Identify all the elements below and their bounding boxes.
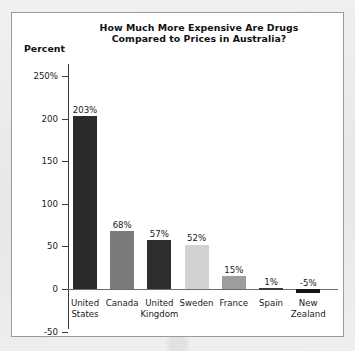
- plot-area: 250%200150100500-50203%UnitedStates68%Ca…: [12, 13, 345, 338]
- y-axis-tick-label: 200: [42, 114, 58, 124]
- bar-value-label: 52%: [175, 233, 219, 243]
- bar-sweden[interactable]: [185, 245, 209, 289]
- y-axis-tick-label: 150: [42, 156, 58, 166]
- x-axis-category-new-zealand: NewZealand: [280, 298, 336, 319]
- category-label-line: New: [280, 298, 336, 309]
- y-axis-tick: [62, 76, 68, 77]
- y-axis-tick: [62, 246, 68, 247]
- bar-value-label: 15%: [212, 265, 256, 275]
- y-axis-tick: [62, 332, 68, 333]
- bar-united-states[interactable]: [73, 116, 97, 289]
- bar-value-label: 203%: [63, 105, 107, 115]
- bar-canada[interactable]: [110, 231, 134, 289]
- y-axis-tick-label: 250%: [33, 71, 58, 81]
- y-axis-tick: [62, 204, 68, 205]
- chart-figure: How Much More Expensive Are Drugs Compar…: [11, 12, 344, 337]
- bar-new-zealand[interactable]: [296, 289, 320, 293]
- y-axis-tick-label: 100: [42, 199, 58, 209]
- category-label-line: States: [57, 309, 113, 320]
- category-label-line: Kingdom: [131, 309, 187, 320]
- bar-value-label: -5%: [286, 278, 330, 288]
- y-axis-tick: [62, 289, 68, 290]
- category-label-line: Zealand: [280, 309, 336, 320]
- y-axis-tick: [62, 161, 68, 162]
- y-axis-tick-label: 50: [47, 241, 58, 251]
- y-axis-tick-label: -50: [44, 327, 58, 337]
- y-axis-tick-label: 0: [53, 284, 58, 294]
- y-axis-tick: [62, 119, 68, 120]
- bar-france[interactable]: [222, 276, 246, 289]
- bar-spain[interactable]: [259, 288, 283, 290]
- bar-united-kingdom[interactable]: [147, 240, 171, 289]
